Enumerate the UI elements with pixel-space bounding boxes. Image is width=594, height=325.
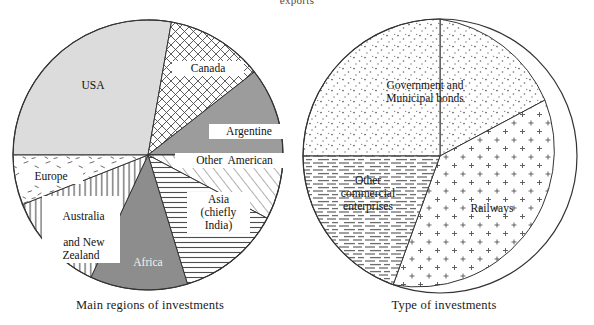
- two-pie-charts-figure: [0, 0, 594, 325]
- caption-type-of-investments: Type of investments: [294, 298, 594, 313]
- pie-slice-government-municipal-bonds-b[interactable]: [303, 19, 440, 156]
- pie-chart-main-regions: [13, 20, 283, 290]
- pie-slice-usa-main[interactable]: [13, 20, 171, 155]
- caption-main-regions-of-investments: Main regions of investments: [0, 298, 300, 313]
- pie-chart-type-of-investments: [303, 19, 577, 293]
